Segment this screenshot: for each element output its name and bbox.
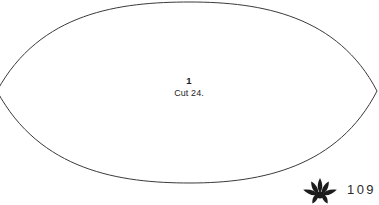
pattern-page: 1 Cut 24. 109 xyxy=(0,0,379,205)
pattern-canvas xyxy=(0,0,379,205)
page-number: 109 xyxy=(347,182,376,201)
lens-shape-outline xyxy=(0,2,377,183)
page-footer: 109 xyxy=(302,176,376,205)
leaf-cluster-ornament xyxy=(302,176,338,205)
